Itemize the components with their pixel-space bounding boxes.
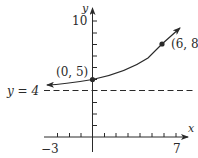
y-axis-ticks — [93, 21, 98, 126]
x-tick-label-neg3: −3 — [41, 142, 59, 156]
exponential-curve-left — [47, 80, 93, 86]
point-6-8 — [159, 41, 164, 46]
exponential-graph: y 10 x −3 7 (0, 5) (6, 8 y = 4 — [0, 0, 198, 158]
x-axis-ticks — [58, 133, 177, 137]
point-label-0-5: (0, 5) — [56, 65, 88, 79]
point-0-5 — [90, 77, 95, 82]
asymptote-label-text: y = 4 — [6, 84, 39, 98]
asymptote-label: y = 4 — [6, 84, 39, 98]
exponential-curve — [93, 28, 181, 80]
point-label-6-8: (6, 8 — [171, 37, 198, 51]
y-tick-label-10: 10 — [72, 14, 87, 28]
x-axis-label: x — [188, 122, 195, 135]
x-tick-label-7: 7 — [173, 142, 181, 156]
